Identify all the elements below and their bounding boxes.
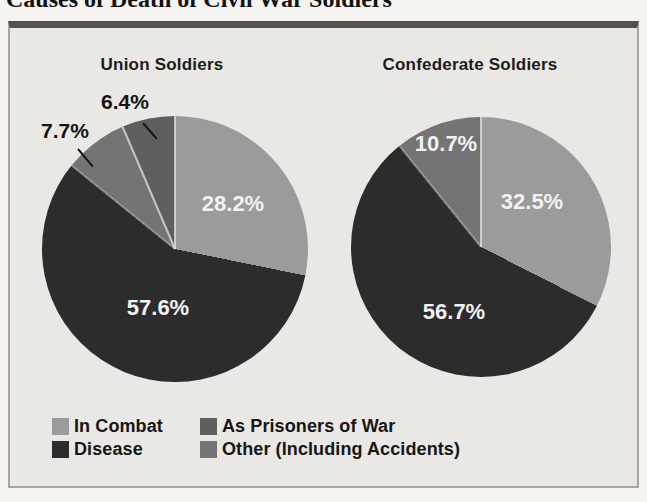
legend-label-other: Other (Including Accidents) xyxy=(222,441,460,458)
legend-label-in-combat: In Combat xyxy=(74,418,163,435)
union-pie-title: Union Soldiers xyxy=(22,55,302,75)
legend-item-pow: As Prisoners of War xyxy=(200,418,460,435)
other-swatch-icon xyxy=(200,441,217,458)
legend-item-disease: Disease xyxy=(52,441,163,458)
chart-box: Union Soldiers Confederate Soldiers 28.2… xyxy=(8,21,639,488)
legend-column-left: In Combat Disease xyxy=(52,418,163,458)
in-combat-swatch-icon xyxy=(52,418,69,435)
confederate-pie-title: Confederate Soldiers xyxy=(330,55,610,75)
union-disease-value-label: 57.6% xyxy=(118,295,198,321)
confederate-in-combat-value-label: 32.5% xyxy=(492,189,572,215)
disease-swatch-icon xyxy=(52,441,69,458)
figure-title-cropped: Causes of Death of Civil War Soldiers xyxy=(6,0,506,13)
legend-item-in-combat: In Combat xyxy=(52,418,163,435)
confederate-disease-value-label: 56.7% xyxy=(414,299,494,325)
union-separator-12oclock xyxy=(174,116,176,249)
chart-box-inner: Union Soldiers Confederate Soldiers 28.2… xyxy=(10,28,637,486)
legend-item-other: Other (Including Accidents) xyxy=(200,441,460,458)
pow-swatch-icon xyxy=(200,418,217,435)
legend-label-pow: As Prisoners of War xyxy=(222,418,395,435)
legend-label-disease: Disease xyxy=(74,441,143,458)
confederate-separator-disease-other xyxy=(399,145,482,247)
page: Causes of Death of Civil War Soldiers Un… xyxy=(0,0,647,502)
union-in-combat-value-label: 28.2% xyxy=(193,191,273,217)
confederate-other-value-label: 10.7% xyxy=(406,131,486,157)
union-separator-disease-other xyxy=(71,165,176,250)
union-other-value-label: 7.7% xyxy=(25,119,105,143)
union-separator-other-pow xyxy=(122,126,176,249)
union-pow-value-label: 6.4% xyxy=(85,90,165,114)
figure-title-text: Causes of Death of Civil War Soldiers xyxy=(6,0,506,12)
legend-column-right: As Prisoners of War Other (Including Acc… xyxy=(200,418,460,458)
